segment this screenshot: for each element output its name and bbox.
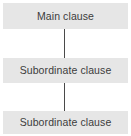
diagram-node-subordinate-clause-2[interactable]: Subordinate clause (3, 111, 128, 134)
clause-hierarchy-diagram: Main clause Subordinate clause Subordina… (0, 0, 131, 136)
diagram-node-label: Main clause (37, 11, 94, 22)
diagram-node-label: Subordinate clause (20, 65, 112, 76)
connector-line-main-to-subordinate-1 (64, 29, 65, 58)
diagram-node-subordinate-clause-1[interactable]: Subordinate clause (3, 58, 128, 83)
connector-line-subordinate-1-to-subordinate-2 (64, 83, 65, 111)
diagram-node-main-clause[interactable]: Main clause (3, 3, 128, 29)
diagram-node-label: Subordinate clause (20, 117, 112, 128)
